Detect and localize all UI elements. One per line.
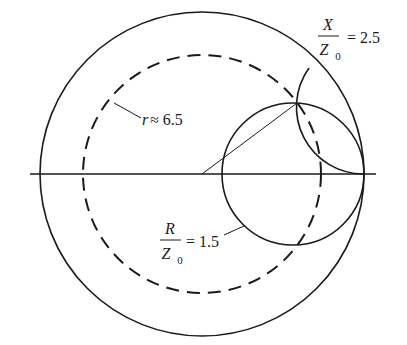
radius-line [202,103,297,174]
smith-chart-diagram: X Z 0 = 2.5 r ≈ 6.5 R Z 0 = 1.5 [0,0,407,345]
svg-text:Z: Z [162,245,172,262]
svg-text:Z: Z [320,41,330,58]
svg-text:r: r [142,111,149,128]
svg-text:X: X [322,16,334,33]
svg-text:R: R [164,220,175,237]
svg-text:= 1.5: = 1.5 [186,233,219,250]
svg-text:0: 0 [177,254,183,266]
svg-text:≈ 6.5: ≈ 6.5 [150,111,183,128]
svg-text:= 2.5: = 2.5 [347,29,380,46]
resistance-label: R Z 0 = 1.5 [160,220,219,266]
svg-text:0: 0 [335,50,341,62]
reactance-arc [296,68,364,174]
radius-leader-line [114,103,141,118]
resistance-leader-line [224,226,244,235]
radius-label: r ≈ 6.5 [142,111,183,128]
reactance-label: X Z 0 = 2.5 [318,16,380,62]
